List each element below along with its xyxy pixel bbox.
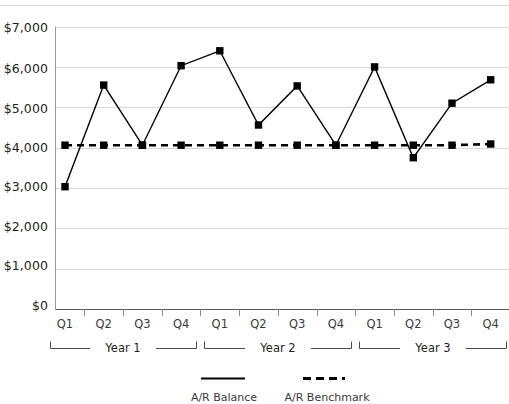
axis-lines — [56, 27, 509, 310]
x-axis-quarter-label: Q2 — [84, 317, 124, 331]
x-axis-quarter-label: Q2 — [239, 317, 279, 331]
x-axis-quarter-label: Q4 — [471, 317, 509, 331]
series-ar-benchmark — [61, 140, 494, 149]
x-axis-quarter-label: Q3 — [432, 317, 472, 331]
x-axis-quarter-label: Q1 — [45, 317, 85, 331]
year-group-label-1: Year 1 — [90, 341, 156, 355]
x-axis-quarter-label: Q2 — [393, 317, 433, 331]
x-axis-quarter-label: Q3 — [122, 317, 162, 331]
x-axis-quarter-label: Q1 — [355, 317, 395, 331]
year-group-label-2: Year 2 — [245, 341, 311, 355]
legend-label-ar-balance: A/R Balance — [176, 391, 272, 404]
gridlines — [55, 28, 509, 270]
chart-canvas: $7,000 $6,000 $5,000 $4,000 $3,000 $2,00… — [0, 0, 509, 404]
year-group-label-3: Year 3 — [400, 341, 466, 355]
x-axis-quarter-label: Q1 — [200, 317, 240, 331]
x-axis-quarter-label: Q4 — [161, 317, 201, 331]
x-axis-quarter-label: Q4 — [316, 317, 356, 331]
legend-label-ar-benchmark: A/R Benchmark — [272, 391, 382, 404]
x-axis-ticks — [85, 309, 472, 316]
series-ar-balance — [61, 47, 494, 190]
x-axis-quarter-label: Q3 — [277, 317, 317, 331]
